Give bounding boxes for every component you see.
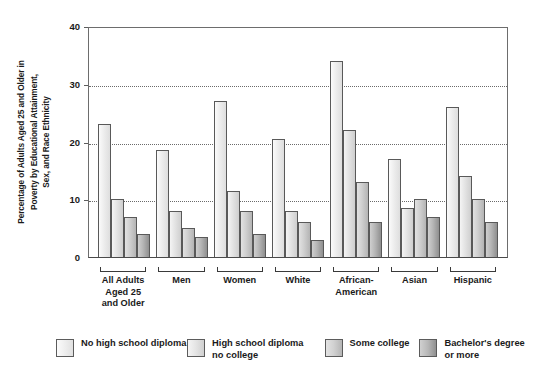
category-bracket	[100, 267, 146, 272]
y-axis-title-line: Sex, and Race Ethnicity	[40, 60, 53, 224]
y-axis-title: Percentage of Adults Aged 25 and Older i…	[15, 60, 53, 224]
category-item: White	[269, 258, 327, 320]
bar	[253, 234, 266, 257]
bar	[298, 222, 311, 257]
bar	[427, 217, 440, 257]
bar-chart-figure: Percentage of Adults Aged 25 and Older i…	[0, 0, 534, 378]
bar	[446, 107, 459, 257]
bar-group	[153, 28, 211, 257]
legend-swatch	[56, 339, 74, 357]
bar-group	[385, 28, 443, 257]
bar	[240, 211, 253, 257]
bar	[485, 222, 498, 257]
bar	[369, 222, 382, 257]
y-tick-label-10: 10	[52, 195, 80, 205]
chart-legend: No high school diplomaHigh school diplom…	[56, 338, 528, 361]
category-bracket	[450, 267, 496, 272]
category-label-line: and Older	[88, 298, 158, 310]
category-item: Hispanic	[444, 258, 502, 320]
bar	[137, 234, 150, 257]
legend-label-line: Some college	[350, 338, 410, 350]
legend-label: High school diplomano college	[212, 338, 303, 361]
y-axis-title-line: Poverty by Educational Attainment,	[28, 60, 41, 224]
legend-label-line: High school diploma	[212, 338, 303, 350]
y-tick-label-20: 20	[52, 138, 80, 148]
category-label-line: American	[321, 287, 391, 299]
category-label-line: Hispanic	[438, 275, 508, 287]
y-axis-title-line: Percentage of Adults Aged 25 and Older i…	[15, 60, 28, 224]
y-axis-title-container: Percentage of Adults Aged 25 and Older i…	[14, 22, 54, 262]
bar-groups	[89, 28, 507, 257]
bar-group	[443, 28, 501, 257]
bar	[214, 101, 227, 257]
bar	[472, 199, 485, 257]
category-bracket	[217, 267, 263, 272]
bar	[124, 217, 137, 257]
legend-item: Bachelor's degreeor more	[419, 338, 528, 361]
bar	[356, 182, 369, 257]
bar	[272, 139, 285, 257]
bar-group	[95, 28, 153, 257]
bar	[343, 130, 356, 257]
legend-label: No high school diploma	[81, 338, 186, 350]
bar	[401, 208, 414, 257]
y-tick-label-30: 30	[52, 80, 80, 90]
bar	[227, 191, 240, 257]
category-bracket	[275, 267, 321, 272]
bar-group	[327, 28, 385, 257]
category-axis: All AdultsAged 25and OlderMenWomenWhiteA…	[88, 258, 508, 320]
legend-item: High school diplomano college	[187, 338, 324, 361]
category-bracket	[333, 267, 379, 272]
bar	[156, 150, 169, 257]
y-tick-label-0: 0	[52, 253, 80, 263]
bar	[182, 228, 195, 257]
category-item: Women	[211, 258, 269, 320]
legend-swatch	[187, 339, 205, 357]
bar	[388, 159, 401, 257]
bar	[195, 237, 208, 257]
legend-swatch	[419, 339, 437, 357]
category-item: Men	[152, 258, 210, 320]
bar	[414, 199, 427, 257]
category-bracket	[158, 267, 204, 272]
category-label-line: Aged 25	[88, 287, 158, 299]
plot-area	[88, 27, 508, 258]
y-tick-label-40: 40	[52, 22, 80, 32]
bar	[330, 61, 343, 257]
legend-item: No high school diploma	[56, 338, 187, 357]
category-item: African-American	[327, 258, 385, 320]
category-label: Hispanic	[438, 275, 508, 287]
bar	[169, 211, 182, 257]
legend-label-line: or more	[444, 350, 524, 362]
bar	[285, 211, 298, 257]
legend-label-line: no college	[212, 350, 303, 362]
bar	[459, 176, 472, 257]
bar	[111, 199, 124, 257]
legend-item: Some college	[325, 338, 420, 357]
bar-group	[269, 28, 327, 257]
legend-label-line: No high school diploma	[81, 338, 186, 350]
category-bracket	[391, 267, 437, 272]
legend-label: Some college	[350, 338, 410, 350]
category-item: Asian	[385, 258, 443, 320]
legend-swatch	[325, 339, 343, 357]
bar-group	[211, 28, 269, 257]
bar	[311, 240, 324, 257]
category-item: All AdultsAged 25and Older	[94, 258, 152, 320]
legend-label-line: Bachelor's degree	[444, 338, 524, 350]
bar	[98, 124, 111, 257]
legend-label: Bachelor's degreeor more	[444, 338, 524, 361]
